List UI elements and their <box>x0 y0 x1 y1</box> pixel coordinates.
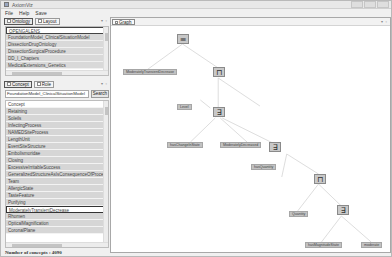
tab-ontology[interactable]: Ontology <box>4 18 33 25</box>
ontology-horizontal-scrollbar[interactable] <box>6 70 108 75</box>
tab-layout[interactable]: Layout <box>35 18 60 25</box>
graph-edges <box>111 26 390 254</box>
graph-panel: Graph ▾ ▫ <box>110 17 391 253</box>
list-item[interactable]: OPENGALENS <box>6 27 108 34</box>
role-node[interactable]: hasQuantity <box>251 164 276 170</box>
list-item[interactable]: Embolismoridae <box>6 150 108 157</box>
list-item[interactable]: GeneralizedStructureAsIsConsequenceOfPro… <box>6 171 108 178</box>
tab-graph[interactable]: Graph <box>112 19 135 25</box>
ontology-vertical-scrollbar[interactable] <box>103 27 108 75</box>
restore-icon[interactable]: ▫ <box>386 19 387 24</box>
role-node[interactable]: hasChangeInState <box>167 142 203 148</box>
tab-concept[interactable]: Concept <box>4 81 32 88</box>
list-item[interactable]: DD_I_Chapters <box>6 55 108 62</box>
exists-node-icon[interactable]: ∃ <box>213 107 225 117</box>
pin-icon[interactable]: ▾ <box>101 81 103 86</box>
intersection-node-icon[interactable]: ⊓ <box>213 67 225 77</box>
checkbox-icon <box>37 82 41 86</box>
ontology-panel-header: Ontology Layout ▾ ▫ <box>3 17 109 25</box>
concept-list[interactable]: Concept Retaining Soleils InfectingProce… <box>5 100 109 248</box>
pin-icon[interactable]: ▾ <box>381 19 383 24</box>
list-item[interactable]: TasteFeature <box>6 192 108 199</box>
graph-canvas[interactable]: ≡ ModeratelyTransientDecrease ⊓ Level ∃ … <box>111 26 390 254</box>
intersection-node-icon[interactable]: ⊓ <box>314 174 326 184</box>
checkbox-icon <box>38 19 42 23</box>
menu-save[interactable]: Save <box>35 10 46 16</box>
concept-node[interactable]: moderate <box>361 242 382 248</box>
tab-role[interactable]: Role <box>34 81 54 88</box>
title-bar: AxiomViz <box>1 1 391 9</box>
close-button[interactable] <box>377 1 389 8</box>
ontology-list[interactable]: OPENGALENS FoundationModel_ClinicalSitua… <box>5 26 109 76</box>
equivalence-node-icon[interactable]: ≡ <box>177 34 189 44</box>
minimize-button[interactable] <box>351 1 363 8</box>
exists-node-icon[interactable]: ∃ <box>337 205 349 215</box>
list-item[interactable]: LengthUnit <box>6 136 108 143</box>
concept-horizontal-scrollbar[interactable] <box>6 242 108 247</box>
search-input[interactable]: FoundationModel_ClinicalSituationModel <box>5 90 89 98</box>
pin-icon[interactable]: ▾ <box>101 18 103 23</box>
list-item[interactable]: ExcessiveIrritableSuccess <box>6 164 108 171</box>
list-item[interactable]: Closing <box>6 157 108 164</box>
level-node[interactable]: Level <box>177 104 192 110</box>
list-item[interactable]: Retaining <box>6 108 108 115</box>
menu-bar: File Help Save <box>1 9 109 17</box>
role-node[interactable]: hasMagnitudeState <box>305 242 342 248</box>
restore-icon[interactable]: ▫ <box>106 81 107 86</box>
list-item[interactable]: EventSiteStructure <box>6 143 108 150</box>
list-item[interactable]: AllergicState <box>6 185 108 192</box>
list-item[interactable]: Rhomen <box>6 213 108 220</box>
app-window: AxiomViz File Help Save Ontology Layout … <box>0 0 392 257</box>
search-button[interactable]: Search <box>91 90 109 98</box>
list-item[interactable]: MedicalExtensions_Genetics <box>6 62 108 69</box>
concept-node[interactable]: ModeratelyTransientDecrease <box>123 69 177 75</box>
concept-panel-header: Concept Role ▾ ▫ <box>3 80 109 88</box>
concept-vertical-scrollbar[interactable] <box>103 101 108 247</box>
graph-panel-header: Graph ▾ ▫ <box>111 18 390 26</box>
concept-panel: Concept Role ▾ ▫ FoundationModel_Clinica… <box>3 80 109 257</box>
menu-file[interactable]: File <box>5 10 13 16</box>
list-item[interactable]: Soleils <box>6 115 108 122</box>
list-item[interactable]: DissectionSurgicalProcedure <box>6 48 108 55</box>
list-item-selected[interactable]: ModeratelyTransientDecrease <box>6 206 108 213</box>
concept-list-header: Concept <box>6 101 108 108</box>
restore-icon[interactable]: ▫ <box>106 18 107 23</box>
list-item[interactable]: FoundationModel_ClinicalSituationModel <box>6 34 108 41</box>
list-item[interactable]: NAMEDSiteProcess <box>6 129 108 136</box>
checkbox-icon <box>115 21 118 24</box>
concept-node[interactable]: ModeratelyDecreased <box>220 142 261 148</box>
checkbox-icon <box>7 82 11 86</box>
window-title: AxiomViz <box>12 2 33 8</box>
app-icon <box>4 2 9 7</box>
list-item[interactable]: Team <box>6 178 108 185</box>
list-item[interactable]: Purifying <box>6 199 108 206</box>
concept-count-status: Number of concepts : 4090 <box>5 250 62 255</box>
exists-node-icon[interactable]: ∃ <box>269 142 281 152</box>
maximize-button[interactable] <box>364 1 376 8</box>
left-column: Ontology Layout ▾ ▫ OPENGALENS Foundatio… <box>3 17 109 257</box>
list-item[interactable]: CoronalPlane <box>6 227 108 234</box>
concept-node[interactable]: Quantity <box>289 211 308 217</box>
checkbox-icon <box>7 19 11 23</box>
list-item[interactable]: DissectionDrugOntology <box>6 41 108 48</box>
list-item[interactable]: OpticalMagnification <box>6 220 108 227</box>
menu-help[interactable]: Help <box>19 10 29 16</box>
list-item[interactable]: InfectingProcess <box>6 122 108 129</box>
